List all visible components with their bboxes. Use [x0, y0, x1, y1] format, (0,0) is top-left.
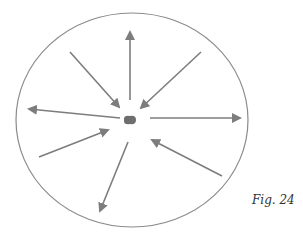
- figure-caption: Fig. 24: [252, 193, 295, 207]
- arrow-upper-left-inward-icon: [70, 52, 119, 107]
- arrow-lower-right-inward-icon: [152, 140, 222, 176]
- center-particle: [124, 116, 136, 124]
- arrow-upper-right-inward-icon: [141, 52, 201, 108]
- arrow-down-outward-icon: [100, 142, 128, 211]
- arrow-lower-left-inward-icon: [39, 130, 108, 157]
- arrow-left-outward-icon: [29, 109, 120, 118]
- figure-canvas: Fig. 24: [0, 0, 303, 233]
